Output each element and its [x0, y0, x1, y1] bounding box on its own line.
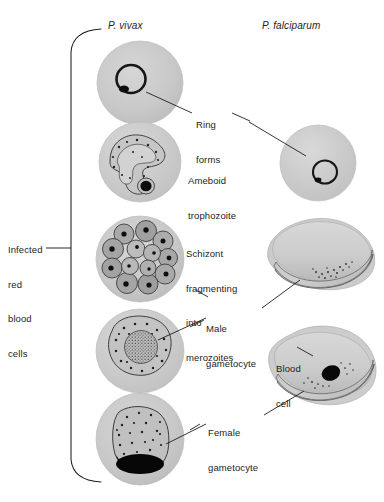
blood-cell-line-2: cell: [276, 398, 301, 410]
bracket-label-line-1: Infected: [8, 244, 43, 256]
infected-cells-bracket: [46, 29, 101, 482]
female-gametocyte-line-2: gametocyte: [208, 462, 258, 474]
infected-red-blood-cells-label: Infected red blood cells: [8, 221, 43, 382]
malaria-stages-figure: P. vivax P. falciparum Infected red bloo…: [0, 0, 384, 502]
cell-vivax-schizont: [96, 216, 184, 302]
ameboid-line-2: trophozoite: [188, 210, 236, 222]
cell-vivax-female-gametocyte: [96, 393, 206, 485]
column-header-falciparum: P. falciparum: [262, 20, 320, 32]
column-header-vivax: P. vivax: [108, 20, 143, 32]
annotation-blood-cell: Blood cell: [276, 340, 301, 432]
annotation-female-gametocyte: Female gametocyte: [208, 404, 258, 496]
cell-vivax-ameboid-trophozoite: [99, 122, 181, 202]
female-gametocyte-parasite: [113, 407, 169, 474]
bracket-label-line-2: red: [8, 279, 43, 291]
male-gametocyte-line-2: gametocyte: [206, 358, 256, 370]
blood-cell-line-1: Blood: [276, 363, 301, 375]
ring-forms-line-1: Ring: [196, 119, 220, 131]
annotation-male-gametocyte: Male gametocyte: [206, 300, 256, 392]
cell-falciparum-ring-form: [249, 122, 356, 201]
female-gametocyte-line-1: Female: [208, 427, 258, 439]
bracket-label-line-4: cells: [8, 348, 43, 360]
ameboid-line-1: Ameboid: [188, 175, 236, 187]
schizont-line-1: Schizont: [186, 248, 237, 260]
cell-vivax-ring-form: [97, 41, 192, 125]
cell-falciparum-male-gametocyte: [262, 218, 375, 308]
bracket-label-line-3: blood: [8, 313, 43, 325]
male-gametocyte-parasite: [109, 316, 172, 375]
male-gametocyte-line-1: Male: [206, 323, 256, 335]
schizont-line-2: fragmenting: [186, 283, 237, 295]
